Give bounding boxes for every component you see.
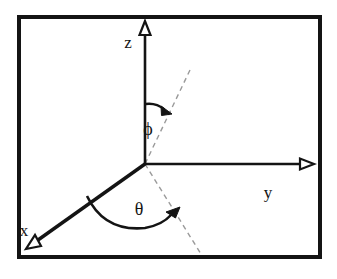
diagram-background	[0, 0, 337, 279]
phi-angle-label: ϕ	[143, 119, 152, 139]
figure-root: z y x ϕ θ	[0, 0, 337, 279]
z-axis-label: z	[124, 33, 132, 52]
x-axis-label: x	[20, 221, 29, 240]
theta-angle-label: θ	[135, 199, 144, 219]
coordinate-axes-diagram: z y x ϕ θ	[0, 0, 337, 279]
y-axis-label: y	[264, 183, 273, 202]
